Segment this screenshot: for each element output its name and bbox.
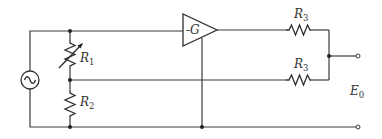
junction-dot [327,54,331,58]
r3-lower-label: R3 [293,57,308,73]
r1-label: R1 [79,51,94,67]
output-terminals: E0 [349,54,364,129]
resistor-r3-lower: R3 [286,57,311,85]
resistor-r1: R1 [59,40,94,68]
top-input-wire [30,31,183,71]
ac-source [21,71,39,89]
junction-dot [68,29,72,33]
junctions [68,29,331,129]
circuit-diagram: R1 R2 -G R3 R3 E0 [0,0,382,139]
r2-zigzag [65,91,75,117]
r3-upper-zigzag [286,25,311,35]
r3-lower-zigzag [286,75,311,85]
junction-dot [68,78,72,82]
output-voltage-label: E0 [349,84,364,100]
junction-dot [200,125,204,129]
r3-upper-label: R3 [293,7,308,23]
wires [30,30,357,127]
amplifier-gain-label: -G [186,23,200,37]
junction-dot [68,125,72,129]
resistor-r3-upper: R3 [286,7,311,35]
resistor-r2: R2 [65,91,94,117]
r2-label: R2 [79,95,94,111]
sine-wave-icon [25,77,36,84]
output-terminal-bottom [356,125,360,129]
output-terminal-top [356,54,360,58]
amplifier: -G [183,14,217,46]
